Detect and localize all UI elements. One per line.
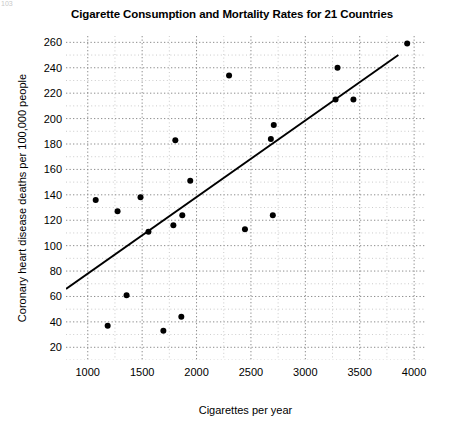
data-point — [187, 178, 193, 184]
data-point — [145, 229, 151, 235]
y-tick-label: 260 — [22, 37, 62, 47]
data-point — [179, 212, 185, 218]
y-tick-label: 20 — [22, 342, 62, 352]
data-point — [138, 194, 144, 200]
chart-title: Cigarette Consumption and Mortality Rate… — [0, 8, 464, 20]
y-tick-label: 100 — [22, 241, 62, 251]
major-gridlines — [66, 36, 425, 360]
data-point — [170, 222, 176, 228]
y-tick-label: 140 — [22, 190, 62, 200]
data-point — [172, 137, 178, 143]
y-tick-label: 80 — [22, 266, 62, 276]
y-tick-label: 200 — [22, 114, 62, 124]
data-point — [178, 314, 184, 320]
x-tick-label: 2500 — [228, 366, 274, 378]
x-tick-label: 1500 — [119, 366, 165, 378]
x-tick-label: 3500 — [337, 366, 383, 378]
y-tick-label: 220 — [22, 88, 62, 98]
trend-line-segment — [66, 55, 398, 289]
x-tick-label: 4000 — [391, 366, 437, 378]
x-tick-label: 1000 — [65, 366, 111, 378]
y-tick-label: 240 — [22, 63, 62, 73]
data-point — [270, 212, 276, 218]
y-tick-label: 40 — [22, 317, 62, 327]
x-tick-label: 3000 — [282, 366, 328, 378]
data-point — [404, 41, 410, 47]
data-point — [115, 208, 121, 214]
data-point — [226, 72, 232, 78]
data-point — [93, 197, 99, 203]
x-axis-ticks: 1000150020002500300035004000 — [66, 366, 425, 382]
data-point — [242, 226, 248, 232]
y-tick-label: 60 — [22, 291, 62, 301]
data-point — [350, 97, 356, 103]
x-tick-label: 2000 — [174, 366, 220, 378]
data-point — [124, 292, 130, 298]
y-tick-label: 180 — [22, 139, 62, 149]
chart-figure: 103 Cigarette Consumption and Mortality … — [0, 0, 464, 438]
data-point — [160, 328, 166, 334]
y-axis-ticks: 20406080100120140160180200220240260 — [20, 36, 62, 360]
data-point — [271, 122, 277, 128]
data-point — [268, 136, 274, 142]
data-point — [333, 97, 339, 103]
page-artifact: 103 — [1, 0, 19, 8]
data-point — [105, 323, 111, 329]
minor-gridlines — [66, 36, 425, 360]
y-tick-label: 160 — [22, 164, 62, 174]
data-point — [335, 65, 341, 71]
plot-area — [66, 36, 425, 360]
scatter-plot-svg — [66, 36, 425, 360]
regression-line — [66, 55, 398, 289]
y-tick-label: 120 — [22, 215, 62, 225]
x-axis-label: Cigarettes per year — [66, 404, 425, 416]
